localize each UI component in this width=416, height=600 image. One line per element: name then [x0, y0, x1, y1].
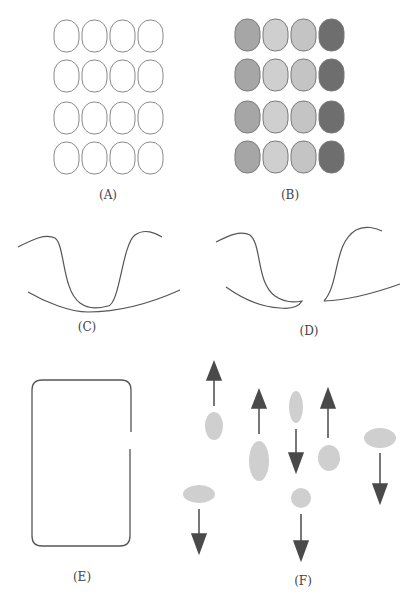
panel-a-label: (A): [88, 188, 128, 202]
panel-f-cells: [183, 391, 396, 508]
panel-b-label: (B): [270, 188, 310, 202]
panel-c-label: (C): [67, 320, 107, 334]
figure-canvas: [0, 0, 416, 600]
panel-f-label: (F): [283, 574, 323, 588]
panel-c-curves: [18, 231, 180, 312]
panel-e-outline: [32, 380, 131, 546]
panel-a-grid: [54, 20, 163, 174]
panel-d-curves: [216, 227, 400, 308]
panel-b-grid: [235, 19, 344, 173]
panel-d-label: (D): [289, 324, 329, 338]
panel-e-label: (E): [62, 570, 102, 584]
panel-f-arrows: [192, 362, 387, 560]
